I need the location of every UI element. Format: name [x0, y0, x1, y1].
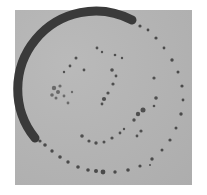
dark-ring-arc: [18, 11, 132, 138]
inner-speckles: [63, 47, 158, 166]
left-patch: [50, 84, 73, 104]
outer-speckle-ring: [38, 24, 184, 174]
specimen-drawing: [0, 0, 207, 195]
